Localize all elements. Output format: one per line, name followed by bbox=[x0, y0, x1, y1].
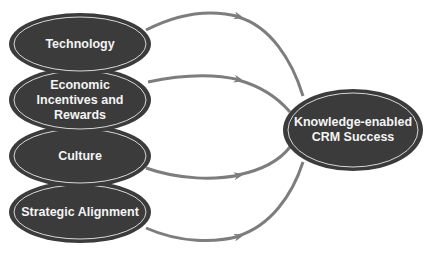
node-economic-label: Economic Incentives and Rewards bbox=[14, 74, 146, 126]
node-culture-label: Culture bbox=[14, 142, 146, 170]
edge-culture-crm bbox=[146, 147, 290, 178]
node-technology-label: Technology bbox=[14, 30, 146, 58]
node-crm-label: Knowledge-enabled CRM Success bbox=[286, 110, 420, 150]
node-strategic-label: Strategic Alignment bbox=[12, 198, 148, 226]
edge-technology-crm bbox=[146, 13, 303, 96]
edge-economic-crm bbox=[148, 76, 290, 112]
